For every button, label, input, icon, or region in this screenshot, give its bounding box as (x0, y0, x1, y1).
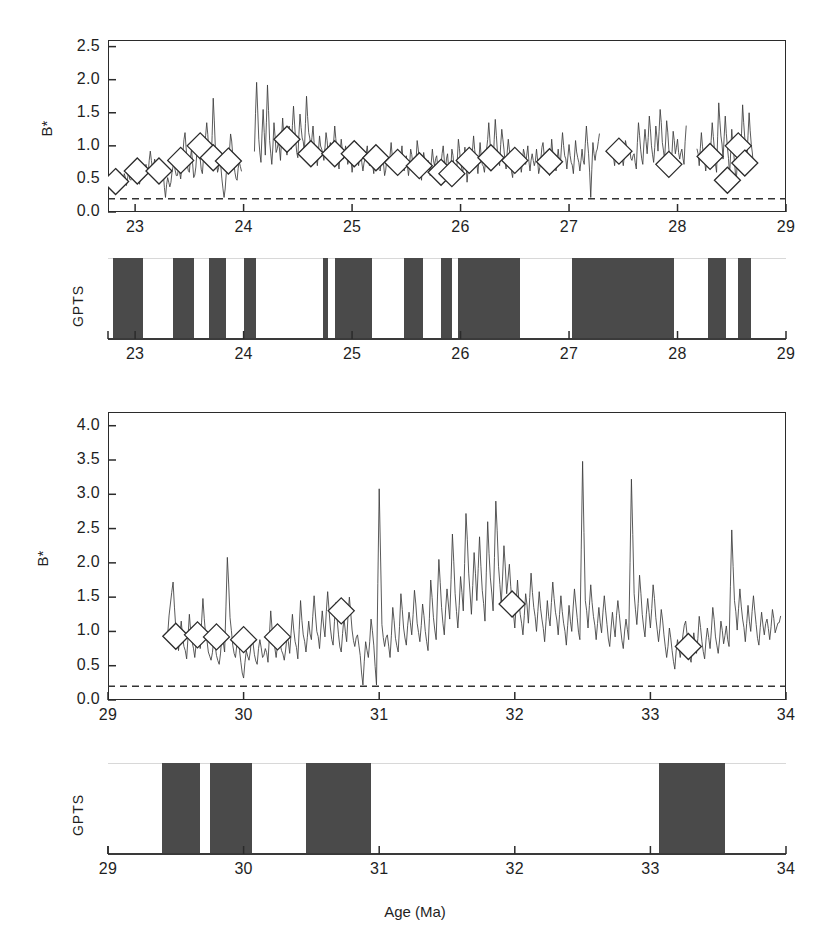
x-tick-label: 27 (539, 345, 599, 363)
panel-lower-bstar: B* 0.00.51.01.52.02.53.03.54.02930313233… (0, 390, 830, 735)
panel-upper-bstar: B* 0.00.51.01.52.02.523242526272829 (0, 0, 830, 240)
data-marker-diamond (499, 591, 525, 617)
data-marker-diamond (298, 141, 324, 167)
y-tick-label: 2.0 (46, 553, 100, 571)
y-tick-label: 3.5 (46, 450, 100, 468)
y-tick-label: 2.5 (46, 519, 100, 537)
data-marker-diamond (103, 169, 129, 195)
data-marker-diamond (341, 141, 367, 167)
x-tick-label: 25 (322, 345, 382, 363)
y-tick-label: 1.0 (46, 621, 100, 639)
x-tick-label: 34 (756, 706, 816, 724)
y-tick-label: 0.5 (46, 656, 100, 674)
panel-lower-gpts: GPTS Age (Ma) 293031323334 (0, 735, 830, 930)
x-tick-label: 33 (620, 706, 680, 724)
data-marker-diamond (231, 627, 257, 653)
y-tick-label: 1.0 (46, 136, 100, 154)
y-tick-label: 3.0 (46, 484, 100, 502)
x-tick-label: 25 (322, 218, 382, 236)
data-marker-diamond (478, 145, 504, 171)
x-tick-label: 28 (648, 345, 708, 363)
x-tick-label: 29 (756, 218, 816, 236)
x-tick-label: 31 (349, 860, 409, 878)
y-tick-label: 2.0 (46, 70, 100, 88)
x-tick-label: 31 (349, 706, 409, 724)
gpts-ticks-lower (0, 735, 830, 930)
x-tick-label: 30 (214, 860, 274, 878)
x-tick-label: 32 (485, 860, 545, 878)
y-tick-label: 0.5 (46, 169, 100, 187)
x-tick-label: 26 (431, 218, 491, 236)
data-marker-diamond (385, 149, 411, 175)
data-marker-diamond (675, 634, 701, 660)
x-tick-label: 32 (485, 706, 545, 724)
figure-root: B* 0.00.51.01.52.02.523242526272829 GPTS… (0, 0, 830, 930)
data-marker-diamond (656, 151, 682, 177)
series-canvas-lower-bstar (0, 390, 830, 735)
x-tick-label: 29 (756, 345, 816, 363)
y-tick-label: 1.5 (46, 103, 100, 121)
x-tick-label: 28 (648, 218, 708, 236)
x-tick-label: 23 (105, 345, 165, 363)
x-tick-label: 30 (214, 706, 274, 724)
series-canvas-upper-bstar (0, 0, 830, 240)
x-tick-label: 26 (431, 345, 491, 363)
x-tick-label: 24 (214, 218, 274, 236)
x-tick-label: 33 (620, 860, 680, 878)
y-tick-label: 2.5 (46, 37, 100, 55)
data-marker-diamond (606, 138, 632, 164)
x-tick-label: 34 (756, 860, 816, 878)
gpts-ticks-upper (0, 240, 830, 360)
x-tick-label: 29 (78, 860, 138, 878)
x-axis-title: Age (Ma) (0, 903, 830, 920)
x-tick-label: 24 (214, 345, 274, 363)
y-tick-label: 4.0 (46, 416, 100, 434)
data-marker-diamond (697, 143, 723, 169)
data-marker-diamond (328, 598, 354, 624)
y-tick-label: 0.0 (46, 202, 100, 220)
panel-upper-gpts: GPTS 23242526272829 (0, 240, 830, 360)
x-tick-label: 29 (78, 706, 138, 724)
data-marker-diamond (163, 623, 189, 649)
data-marker-diamond (265, 624, 291, 650)
y-tick-label: 1.5 (46, 587, 100, 605)
x-tick-label: 27 (539, 218, 599, 236)
x-tick-label: 23 (105, 218, 165, 236)
